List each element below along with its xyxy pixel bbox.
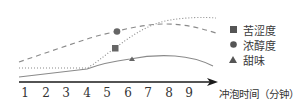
x-tick-label: 1 bbox=[21, 86, 29, 100]
x-tick-label: 4 bbox=[83, 86, 91, 100]
legend: 苦涩度 浓醇度 甜味 bbox=[228, 22, 276, 67]
legend-label: 苦涩度 bbox=[243, 22, 276, 38]
circle-marker-icon bbox=[114, 28, 121, 35]
x-tick-label: 8 bbox=[165, 86, 173, 100]
legend-item-nongchundu: 浓醇度 bbox=[228, 37, 276, 52]
square-icon bbox=[228, 26, 238, 33]
legend-item-tianwei: 甜味 bbox=[228, 52, 276, 67]
x-tick-label: 6 bbox=[124, 86, 132, 100]
series-tianwei-line bbox=[19, 56, 213, 77]
triangle-icon bbox=[228, 56, 238, 63]
x-tick-label: 3 bbox=[62, 86, 70, 100]
x-tick-label: 5 bbox=[103, 86, 111, 100]
legend-item-kusedu: 苦涩度 bbox=[228, 22, 276, 37]
legend-label: 浓醇度 bbox=[243, 37, 276, 53]
x-tick-label: 9 bbox=[185, 86, 193, 100]
square-marker-icon bbox=[112, 45, 119, 52]
legend-label: 甜味 bbox=[243, 52, 265, 68]
x-axis-title: 冲泡时间（分钟） bbox=[219, 86, 293, 101]
x-tick-label: 7 bbox=[144, 86, 152, 100]
x-tick-label: 2 bbox=[42, 86, 50, 100]
circle-icon bbox=[228, 41, 238, 48]
